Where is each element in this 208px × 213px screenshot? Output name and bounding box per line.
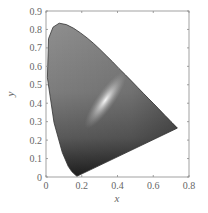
- y-axis-label: y: [4, 91, 16, 97]
- x-tick-label: 0.2: [76, 180, 89, 191]
- y-tick-label: 0.4: [30, 98, 43, 109]
- y-tick-label: 0.9: [30, 6, 43, 17]
- y-tick-label: 0.2: [30, 135, 43, 146]
- y-tick-label: 0.5: [30, 79, 43, 90]
- x-tick-label: 0: [44, 180, 49, 191]
- x-axis-label: x: [114, 192, 120, 204]
- y-tick-label: 0.8: [30, 24, 43, 35]
- y-tick-label: 0.1: [30, 153, 43, 164]
- y-tick-label: 0.7: [30, 42, 43, 53]
- y-tick-label: 0.6: [30, 61, 43, 72]
- y-tick-label: 0.3: [30, 116, 43, 127]
- chromaticity-chart: 00.20.40.60.8 00.10.20.30.40.50.60.70.80…: [0, 0, 208, 213]
- y-tick-label: 0: [37, 172, 42, 183]
- x-tick-label: 0.4: [111, 180, 124, 191]
- x-tick-label: 0.8: [183, 180, 196, 191]
- x-tick-label: 0.6: [147, 180, 160, 191]
